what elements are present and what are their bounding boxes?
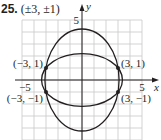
y-axis-label: y	[85, 0, 91, 12]
graph: (−3, 1)(3, 1)(−3, −1)(3, −1)−555−5xy	[0, 0, 161, 140]
point-label: (3, −1)	[121, 92, 151, 105]
axes	[15, 4, 159, 140]
intersection-point	[44, 66, 48, 70]
y-tick-label: −5	[67, 138, 79, 140]
intersection-point	[116, 90, 120, 94]
y-tick-label: 5	[74, 14, 80, 26]
y-axis-arrow-icon	[80, 4, 85, 11]
intersection-point	[116, 66, 120, 70]
labels: (−3, 1)(3, 1)(−3, −1)(3, −1)−555−5xy	[7, 0, 159, 140]
intersection-point	[44, 90, 48, 94]
x-axis-label: x	[153, 81, 159, 93]
point-label: (3, 1)	[121, 57, 145, 70]
point-label: (−3, −1)	[7, 92, 44, 105]
point-label: (−3, 1)	[13, 57, 43, 70]
x-tick-label: 5	[139, 81, 145, 93]
x-tick-label: −5	[19, 81, 31, 93]
